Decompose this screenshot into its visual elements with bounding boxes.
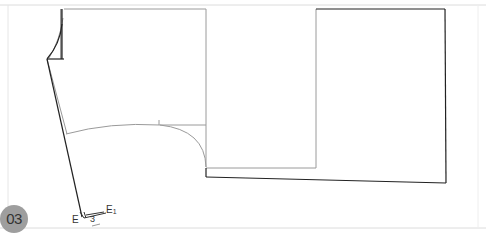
e-corner-mark-2 bbox=[84, 212, 86, 218]
construction-lines bbox=[47, 9, 316, 168]
measure-arrow bbox=[92, 224, 100, 226]
side-seam-line bbox=[47, 59, 82, 217]
e-corner-mark bbox=[80, 212, 84, 218]
pattern-diagram: E E1 3 bbox=[0, 0, 486, 235]
pattern-drawing: E E1 3 bbox=[0, 0, 486, 235]
outline-lines bbox=[47, 9, 446, 217]
right-edge-line bbox=[445, 9, 446, 183]
point-e-label: E bbox=[72, 214, 79, 225]
neckline-curve bbox=[47, 24, 62, 59]
measure-label: 3 bbox=[90, 214, 95, 224]
point-e1-label: E1 bbox=[106, 204, 117, 215]
armhole-curve bbox=[66, 124, 206, 167]
hem-line bbox=[206, 177, 446, 183]
figure-number-badge: 03 bbox=[0, 205, 28, 233]
